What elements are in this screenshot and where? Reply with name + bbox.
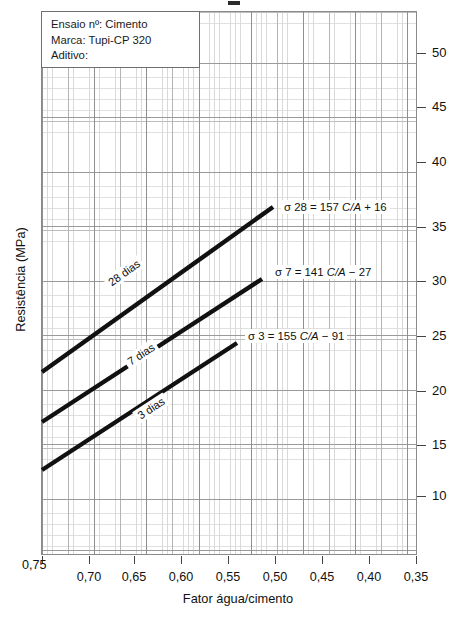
ytick-label-10: 10 (432, 488, 446, 503)
xtick-mark-050 (275, 556, 276, 564)
equation-3-dias: σ 3 = 155 C/A − 91 (245, 329, 347, 343)
info-line-aditivo: Aditivo: (51, 48, 199, 64)
ytick-label-20: 20 (432, 383, 446, 398)
plot-area (41, 11, 417, 555)
xtick-label-065: 0,65 (122, 570, 147, 584)
xtick-mark-045 (322, 556, 323, 564)
grid-medium (42, 12, 416, 554)
ytick-mark-25 (417, 336, 426, 337)
x-axis-title: Fator água/cimento (0, 591, 476, 606)
xtick-label-050: 0,50 (263, 570, 288, 584)
grid-major (42, 12, 416, 554)
xtick-label-075: 0,75 (22, 558, 47, 572)
xtick-mark-070 (89, 556, 90, 564)
grid-minor (42, 12, 416, 554)
top-edge-artifact (228, 1, 240, 5)
equation-7-variable: C/A (327, 266, 346, 278)
xtick-label-035: 0,35 (404, 570, 429, 584)
xtick-label-060: 0,60 (169, 570, 194, 584)
xtick-mark-040 (369, 556, 370, 564)
ytick-mark-30 (417, 281, 426, 282)
ytick-mark-15 (417, 445, 426, 446)
ytick-mark-35 (417, 227, 426, 228)
equation-3-variable: C/A (300, 330, 319, 342)
equation-28-prefix: σ 28 = 157 (284, 201, 342, 213)
ytick-label-45: 45 (432, 99, 446, 114)
xtick-mark-060 (181, 556, 182, 564)
ytick-mark-40 (417, 162, 426, 163)
ytick-mark-50 (417, 53, 426, 54)
equation-28-dias: σ 28 = 157 C/A + 16 (281, 200, 390, 214)
info-line-marca: Marca: Tupi-CP 320 (51, 33, 199, 49)
equation-7-dias: σ 7 = 141 C/A − 27 (272, 265, 374, 279)
xtick-label-070: 0,70 (77, 570, 102, 584)
info-box: Ensaio nº: Cimento Marca: Tupi-CP 320 Ad… (41, 11, 200, 68)
ytick-label-30: 30 (432, 273, 446, 288)
xtick-label-040: 0,40 (357, 570, 382, 584)
chart-canvas: 28 dias 7 dias 3 dias σ 28 = 157 C/A + 1… (0, 0, 476, 619)
equation-3-suffix: − 91 (319, 330, 345, 342)
ytick-mark-20 (417, 391, 426, 392)
ytick-mark-45 (417, 107, 426, 108)
ytick-label-35: 35 (432, 219, 446, 234)
ytick-label-40: 40 (432, 154, 446, 169)
xtick-label-055: 0,55 (216, 570, 241, 584)
ytick-mark-10 (417, 496, 426, 497)
equation-7-suffix: − 27 (346, 266, 372, 278)
xtick-label-045: 0,45 (310, 570, 335, 584)
xtick-mark-065 (134, 556, 135, 564)
y-axis-title: Resistência (MPa) (13, 190, 28, 370)
equation-28-variable: C/A (342, 201, 361, 213)
xtick-mark-035 (416, 556, 417, 564)
xtick-mark-055 (228, 556, 229, 564)
equation-7-prefix: σ 7 = 141 (275, 266, 327, 278)
equation-28-suffix: + 16 (361, 201, 387, 213)
info-line-ensaio: Ensaio nº: Cimento (51, 17, 199, 33)
ytick-label-25: 25 (432, 328, 446, 343)
ytick-label-50: 50 (432, 45, 446, 60)
equation-3-prefix: σ 3 = 155 (248, 330, 300, 342)
ytick-label-15: 15 (432, 437, 446, 452)
